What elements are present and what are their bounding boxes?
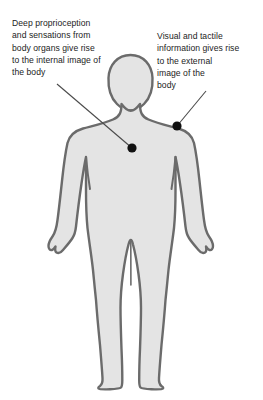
external-leader-line [177,91,206,126]
human-body-silhouette [49,55,214,389]
internal-image-annotation-text: Deep proprioception and sensations from … [12,17,120,78]
external-image-marker-dot [172,121,181,130]
body-image-diagram: Deep proprioception and sensations from … [0,0,263,400]
external-image-annotation-text: Visual and tactile information gives ris… [157,30,255,91]
internal-image-marker-dot [127,143,136,152]
